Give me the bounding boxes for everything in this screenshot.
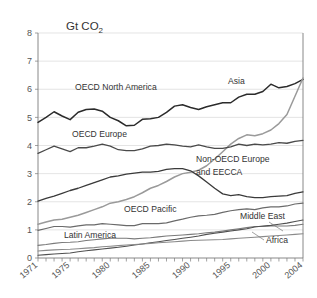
x-tick-label: 1985	[130, 260, 152, 281]
series-label: Africa	[266, 235, 288, 245]
series-line	[38, 78, 303, 224]
series-label: OECD Pacific	[124, 204, 177, 214]
series-label: Asia	[228, 76, 245, 86]
series-line	[38, 140, 303, 153]
y-tick-label: 1	[27, 225, 32, 235]
series-label: OECD North America	[75, 82, 157, 92]
series-label: OECD Europe	[72, 129, 127, 139]
series-label: Middle East	[240, 211, 286, 221]
africa-leader	[252, 232, 264, 240]
y-tick-label: 8	[27, 28, 32, 38]
y-tick-label: 5	[27, 113, 32, 123]
y-tick-label: 6	[27, 84, 32, 94]
label-layer: OECD North AmericaAsiaOECD EuropeNon-OEC…	[64, 76, 288, 245]
x-tick-label: 1990	[170, 260, 192, 281]
x-tick-label: 1980	[90, 260, 112, 281]
axis-layer	[35, 33, 303, 262]
series-layer	[38, 78, 303, 255]
y-tick-label: 7	[27, 56, 32, 66]
chart-title-main: Gt CO	[66, 20, 99, 32]
chart-svg: OECD North AmericaAsiaOECD EuropeNon-OEC…	[0, 0, 317, 298]
chart-title-subscript: 2	[99, 26, 104, 35]
x-tick-label: 1995	[210, 260, 232, 281]
series-label-line2: and EECCA	[196, 167, 243, 177]
y-tick-label: 3	[27, 169, 32, 179]
x-tick-label: 2000	[250, 260, 272, 281]
y-tick-label: 4	[27, 141, 32, 151]
y-tick-label: 2	[27, 197, 32, 207]
x-tick-label: 1971	[18, 260, 40, 281]
series-label: Non-OECD Europe	[196, 154, 270, 164]
co2-emissions-line-chart: OECD North AmericaAsiaOECD EuropeNon-OEC…	[0, 0, 317, 298]
x-tick-label: 1975	[50, 260, 72, 281]
x-tick-label: 2004	[283, 260, 305, 281]
series-label: Latin America	[64, 230, 116, 240]
